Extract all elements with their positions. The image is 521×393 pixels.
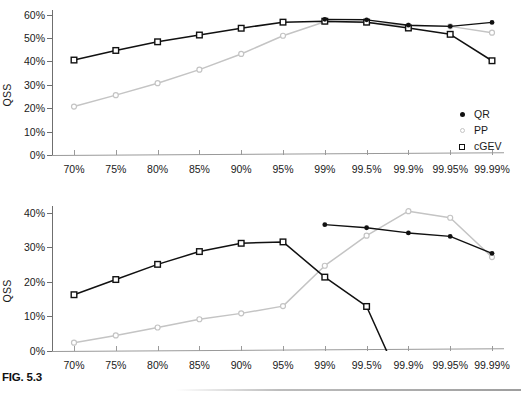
data-point-pp bbox=[364, 233, 369, 238]
x-tick-label: 70% bbox=[63, 163, 84, 175]
data-point-qr bbox=[490, 20, 495, 25]
y-tick-label: 10% bbox=[24, 310, 45, 322]
x-tick-label: 99% bbox=[314, 359, 335, 371]
data-point-pp bbox=[490, 30, 495, 35]
data-point-qr bbox=[406, 23, 411, 28]
chart-panel-bottom: QSS 0%10%20%30%40%70%75%80%85%90%95%99%9… bbox=[0, 196, 521, 386]
x-tick-label: 95% bbox=[272, 359, 293, 371]
x-tick-label: 99.9% bbox=[394, 163, 424, 175]
x-tick-label: 70% bbox=[63, 359, 84, 371]
data-point-pp bbox=[72, 104, 77, 109]
data-point-cgev bbox=[113, 48, 119, 54]
data-point-qr bbox=[322, 222, 327, 227]
data-point-pp bbox=[113, 93, 118, 98]
plot-area-bottom: 0%10%20%30%40%70%75%80%85%90%95%99%99.5%… bbox=[52, 206, 504, 351]
data-point-cgev bbox=[113, 277, 119, 283]
data-point-pp bbox=[72, 340, 77, 345]
x-tick-label: 85% bbox=[189, 163, 210, 175]
x-tick-label: 99.5% bbox=[352, 163, 382, 175]
x-tick-label: 75% bbox=[105, 359, 126, 371]
x-tick-label: 99% bbox=[314, 163, 335, 175]
data-point-cgev bbox=[322, 274, 328, 280]
x-tick-label: 99.5% bbox=[352, 359, 382, 371]
data-point-cgev bbox=[238, 240, 244, 246]
legend-label: PP bbox=[474, 125, 488, 136]
figure-caption: FIG. 5.3 bbox=[2, 371, 42, 383]
data-point-cgev bbox=[71, 292, 77, 298]
series-layer bbox=[52, 10, 504, 155]
x-tick-label: 99.95% bbox=[432, 359, 468, 371]
data-point-pp bbox=[239, 311, 244, 316]
data-point-cgev bbox=[364, 304, 370, 310]
series-layer bbox=[52, 206, 504, 351]
data-point-pp bbox=[155, 325, 160, 330]
series-line-qr bbox=[325, 225, 492, 254]
x-tick-label: 80% bbox=[147, 163, 168, 175]
series-line-cgev bbox=[74, 21, 492, 61]
data-point-cgev bbox=[155, 39, 161, 45]
data-point-qr bbox=[364, 225, 369, 230]
data-point-pp bbox=[197, 67, 202, 72]
data-point-cgev bbox=[280, 19, 286, 25]
y-tick-label: 10% bbox=[24, 126, 45, 138]
footer-rule bbox=[175, 389, 521, 391]
x-tick-label: 75% bbox=[105, 163, 126, 175]
legend-item-cgev: cGEV bbox=[455, 140, 501, 153]
y-tick-label: 50% bbox=[24, 32, 45, 44]
data-point-cgev bbox=[238, 25, 244, 31]
data-point-pp bbox=[322, 263, 327, 268]
legend-top: QRPPcGEV bbox=[455, 108, 501, 156]
legend-item-qr: QR bbox=[455, 108, 501, 121]
x-tick-label: 99.99% bbox=[474, 359, 510, 371]
data-point-cgev bbox=[71, 57, 77, 63]
data-point-cgev bbox=[197, 32, 203, 38]
plot-area-top: 0%10%20%30%40%50%60%70%75%80%85%90%95%99… bbox=[52, 10, 504, 155]
y-tick-label: 30% bbox=[24, 79, 45, 91]
data-point-pp bbox=[113, 333, 118, 338]
open-square-icon bbox=[455, 144, 469, 150]
data-point-cgev bbox=[280, 239, 286, 245]
data-point-cgev bbox=[155, 262, 161, 268]
data-point-qr bbox=[490, 251, 495, 256]
y-tick-label: 30% bbox=[24, 241, 45, 253]
x-tick-label: 90% bbox=[231, 163, 252, 175]
data-point-cgev bbox=[489, 58, 495, 64]
data-point-qr bbox=[448, 24, 453, 29]
x-tick-label: 85% bbox=[189, 359, 210, 371]
series-line-pp bbox=[74, 211, 492, 343]
x-tick-label: 99.9% bbox=[394, 359, 424, 371]
data-point-cgev bbox=[197, 249, 203, 255]
data-point-qr bbox=[322, 17, 327, 22]
data-point-pp bbox=[197, 317, 202, 322]
x-tick-label: 95% bbox=[272, 163, 293, 175]
legend-label: cGEV bbox=[474, 141, 501, 152]
x-tick-label: 80% bbox=[147, 359, 168, 371]
y-axis-label-top: QSS bbox=[1, 84, 13, 107]
y-tick-label: 40% bbox=[24, 207, 45, 219]
data-point-cgev bbox=[447, 32, 453, 38]
figure-container: QSS 0%10%20%30%40%50%60%70%75%80%85%90%9… bbox=[0, 0, 521, 393]
chart-panel-top: QSS 0%10%20%30%40%50%60%70%75%80%85%90%9… bbox=[0, 0, 521, 190]
data-point-pp bbox=[448, 215, 453, 220]
y-tick-label: 20% bbox=[24, 102, 45, 114]
data-point-pp bbox=[239, 51, 244, 56]
data-point-pp bbox=[281, 33, 286, 38]
x-tick-label: 99.99% bbox=[474, 163, 510, 175]
y-tick-label: 0% bbox=[30, 149, 45, 161]
data-point-pp bbox=[406, 209, 411, 214]
legend-label: QR bbox=[474, 109, 490, 120]
data-point-qr bbox=[448, 234, 453, 239]
filled-dot-icon bbox=[455, 112, 469, 117]
y-tick-label: 60% bbox=[24, 9, 45, 21]
y-tick-label: 20% bbox=[24, 276, 45, 288]
y-axis-label-bottom: QSS bbox=[1, 280, 13, 303]
data-point-pp bbox=[155, 81, 160, 86]
y-tick-label: 0% bbox=[30, 345, 45, 357]
data-point-qr bbox=[406, 231, 411, 236]
data-point-qr bbox=[364, 17, 369, 22]
x-tick-label: 99.95% bbox=[432, 163, 468, 175]
data-point-pp bbox=[281, 304, 286, 309]
legend-item-pp: PP bbox=[455, 124, 501, 137]
x-tick-label: 90% bbox=[231, 359, 252, 371]
y-tick-label: 40% bbox=[24, 55, 45, 67]
